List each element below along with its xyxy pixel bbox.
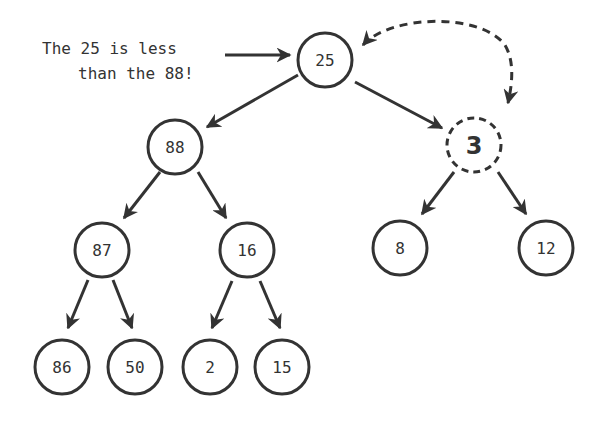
edge-87-50 xyxy=(113,280,132,328)
swap-arrow xyxy=(363,21,512,103)
node-label-16: 16 xyxy=(237,241,256,260)
edge-3-12 xyxy=(498,172,526,214)
node-label-15: 15 xyxy=(272,358,291,377)
edge-16-2 xyxy=(212,281,232,328)
annotation-line2: than the 88! xyxy=(78,64,194,83)
node-label-8: 8 xyxy=(395,239,405,258)
edge-87-86 xyxy=(68,280,88,328)
node-label-25: 25 xyxy=(315,51,334,70)
node-label-12: 12 xyxy=(536,239,555,258)
node-label-50: 50 xyxy=(125,358,144,377)
edge-16-15 xyxy=(260,281,280,328)
node-label-2: 2 xyxy=(205,358,215,377)
edge-25-88 xyxy=(207,75,298,127)
node-label-3: 3 xyxy=(466,132,483,160)
node-label-88: 88 xyxy=(165,138,184,157)
node-label-86: 86 xyxy=(52,358,71,377)
edge-88-16 xyxy=(198,172,226,218)
node-label-87: 87 xyxy=(92,241,111,260)
heap-diagram: The 25 is less than the 88! 25 xyxy=(0,0,600,422)
tree-edges xyxy=(68,75,526,328)
edge-3-8 xyxy=(422,172,454,214)
edge-88-87 xyxy=(124,172,160,218)
edge-25-3 xyxy=(355,82,442,128)
annotation-line1: The 25 is less xyxy=(42,39,177,58)
